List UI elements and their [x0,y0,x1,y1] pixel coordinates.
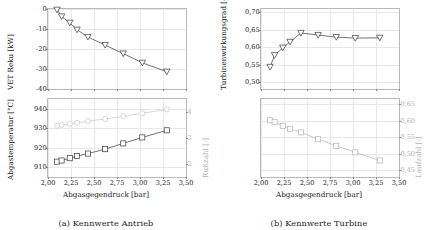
y-tick-label: 0,50 [245,78,260,86]
x-tick [330,89,331,91]
plot-b-top-ylabel: Turbinenwirkungsgrad [-] [219,0,228,90]
y-tick-label: 910 [34,163,47,171]
y2-tick-label: 3 [187,134,191,142]
x-tick [163,89,164,91]
series-laufzahl [261,99,399,178]
plot-b-bottom-y2label: Laufzahl [-] [414,136,423,178]
y-tick-label: -30 [36,65,47,73]
x-tick-label: 2,25 [64,179,79,187]
plot-a-bottom-y2label: Rußzahl [-] [201,138,210,178]
y-tick-label: 0 [42,5,46,13]
y2-tick-label: 0,60 [400,117,415,125]
plot-a-bottom-panel: 9109209309402342,002,252,502,753,003,253… [47,98,187,178]
x-tick-label: 2,00 [41,179,56,187]
plot-b-xlabel: Abgasgegendruck [bar] [213,190,425,199]
x-tick-label: 3,00 [133,179,148,187]
caption-b: (b) Kennwerte Turbine [213,218,425,228]
x-tick-label: 3,25 [369,179,384,187]
series-turbinenwirkungsgrad [261,9,399,90]
x-tick [261,89,262,91]
y-tick-label: 940 [34,105,47,113]
x-tick-label: 2,50 [300,179,315,187]
y2-tick-label: 2 [187,160,191,168]
caption-a: (a) Kennwerte Antrieb [0,218,212,228]
series-abgastemperatur [48,99,186,178]
x-tick-label: 3,50 [179,179,194,187]
x-tick-label: 2,50 [87,179,102,187]
plot-a-bottom-ylabel: Abgastemperatur [°C] [6,99,15,180]
subfigure-b: 0,500,550,600,650,70 Turbinenwirkungsgra… [213,0,425,230]
y-tick-label: 0,55 [245,61,260,69]
y2-tick-label: 0,45 [400,166,415,174]
y-tick-label: -40 [36,85,47,93]
y-tick-label: -20 [36,45,47,53]
x-tick [307,89,308,91]
y-tick-label: 920 [34,144,47,152]
subfigure-a: 0-10-20-30-40 VET Reku [kW] 910920930940… [0,0,212,230]
x-tick [71,89,72,91]
x-tick-label: 2,25 [277,179,292,187]
x-tick-label: 3,25 [156,179,171,187]
x-tick [94,89,95,91]
y2-tick-label: 0,65 [400,100,415,108]
y-tick-label: 0,60 [245,43,260,51]
y-tick-label: 930 [34,124,47,132]
y2-tick-label: 4 [187,108,191,116]
x-tick [48,89,49,91]
x-tick [117,89,118,91]
x-tick-label: 2,75 [323,179,338,187]
x-tick [353,89,354,91]
plot-a-top-ylabel: VET Reku [kW] [6,34,15,90]
x-tick [376,89,377,91]
series-vet-reku [48,9,186,90]
y-tick-label: 0,65 [245,26,260,34]
x-tick-label: 3,50 [392,179,407,187]
y-tick-label: -10 [36,25,47,33]
x-tick-label: 2,00 [254,179,269,187]
y2-tick-label: 0,55 [400,133,415,141]
plot-b-bottom-panel: 0,450,500,550,600,652,002,252,502,753,00… [260,98,400,178]
x-tick [186,89,187,91]
plot-a-xlabel: Abgasgegendruck [bar] [0,190,212,199]
y-tick-label: 0,70 [245,8,260,16]
x-tick-label: 2,75 [110,179,125,187]
y2-tick-label: 0,50 [400,150,415,158]
x-tick [399,89,400,91]
plot-a-top-panel: 0-10-20-30-40 [47,8,187,90]
x-tick [284,89,285,91]
plot-b-top-panel: 0,500,550,600,650,70 [260,8,400,90]
x-tick [140,89,141,91]
x-tick-label: 3,00 [346,179,361,187]
